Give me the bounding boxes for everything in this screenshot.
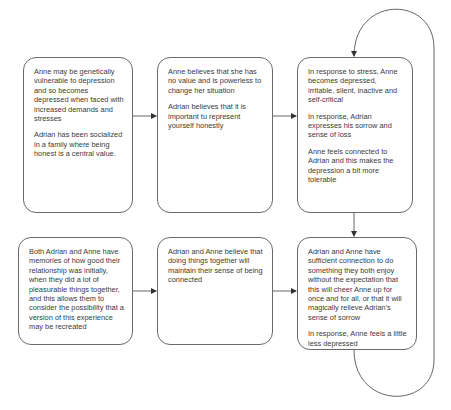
box-sufficient-connection: Adrian and Anne have sufficient connecti…	[297, 237, 417, 350]
box3-paragraph-2: In response, Adrian expresses his sorrow…	[308, 112, 404, 140]
box-shared-memories: Both Adrian and Anne have memories of ho…	[18, 237, 133, 345]
box2-paragraph-1: Anne believes that she has no value and …	[168, 67, 264, 95]
box1-paragraph-1: Anne may be genetically vulnerable to de…	[34, 67, 124, 123]
box1-paragraph-2: Adrian has been socialized in a family w…	[34, 130, 124, 158]
box2-paragraph-2: Adrian believes that it is important tu …	[168, 102, 264, 130]
box-beliefs: Anne believes that she has no value and …	[157, 57, 273, 213]
box3-paragraph-3: Anne feels connected to Adrian and this …	[308, 147, 404, 185]
box5-paragraph-1: Adrian and Anne believe that doing thing…	[168, 247, 264, 285]
flow-diagram: Anne may be genetically vulnerable to de…	[0, 0, 451, 410]
box3-paragraph-1: In response to stress, Anne becomes depr…	[308, 67, 404, 105]
box6-paragraph-2: In response, Anne feels a little less de…	[308, 329, 408, 348]
box4-paragraph-1: Both Adrian and Anne have memories of ho…	[29, 247, 124, 332]
box6-paragraph-1: Adrian and Anne have sufficient connecti…	[308, 247, 408, 322]
box-doing-things-together: Adrian and Anne believe that doing thing…	[157, 237, 273, 345]
box-response-to-stress: In response to stress, Anne becomes depr…	[297, 57, 413, 213]
box-genetic-vulnerability: Anne may be genetically vulnerable to de…	[23, 57, 133, 213]
